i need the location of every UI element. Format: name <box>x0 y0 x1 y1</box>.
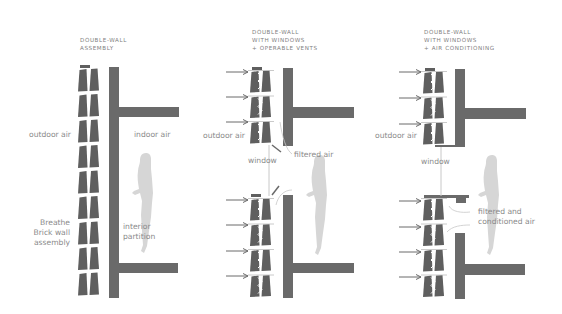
label-outdoor-air: outdoor air <box>29 130 71 140</box>
title-line: WITH WINDOWS <box>424 37 477 43</box>
label-line: assembly <box>26 238 70 248</box>
label-line: filtered and <box>478 207 535 217</box>
label-outdoor-air: outdoor air <box>375 131 417 141</box>
title-line: WITH WINDOWS <box>252 37 305 43</box>
label-filtered-air: filtered air <box>294 150 333 160</box>
panel3-title: DOUBLE-WALL WITH WINDOWS + AIR CONDITION… <box>424 28 495 53</box>
label-indoor-air: indoor air <box>134 130 170 140</box>
label-interior-partition: interior partition <box>123 222 155 242</box>
title-line: ASSEMBLY <box>80 45 114 51</box>
label-line: Brick wall <box>26 228 70 238</box>
title-line: DOUBLE-WALL <box>252 29 299 35</box>
title-line: + AIR CONDITIONING <box>424 45 495 51</box>
brick-column <box>78 69 99 296</box>
title-line: DOUBLE-WALL <box>80 37 127 43</box>
panel2-title: DOUBLE-WALL WITH WINDOWS + OPERABLE VENT… <box>252 28 318 53</box>
panel-operable-vents <box>226 67 354 298</box>
panel-double-wall-assembly <box>78 65 179 298</box>
exterior-wall <box>109 67 119 298</box>
label-breathe-brick: Breathe Brick wall assembly <box>26 218 70 248</box>
label-window: window <box>421 157 450 167</box>
floor-slab-upper <box>119 107 179 117</box>
label-line: Breathe <box>26 218 70 228</box>
label-line: interior <box>123 222 155 232</box>
label-window: window <box>248 156 277 166</box>
label-filtered-conditioned-air: filtered and conditioned air <box>478 207 535 227</box>
panel1-title: DOUBLE-WALL ASSEMBLY <box>80 36 127 52</box>
panel-air-conditioning <box>399 68 526 299</box>
label-line: partition <box>123 232 155 242</box>
title-line: DOUBLE-WALL <box>424 29 471 35</box>
label-outdoor-air: outdoor air <box>203 131 245 141</box>
label-line: conditioned air <box>478 217 535 227</box>
title-line: + OPERABLE VENTS <box>252 45 318 51</box>
floor-slab-lower <box>119 263 178 273</box>
